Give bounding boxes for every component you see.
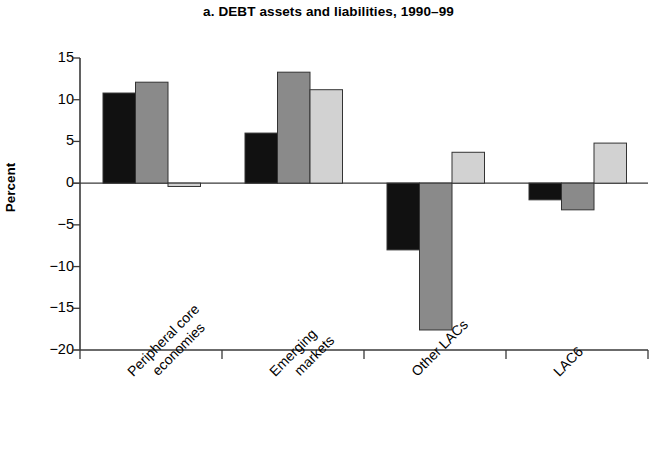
bar: [245, 133, 278, 183]
bar: [562, 183, 595, 210]
bar: [310, 90, 343, 183]
bar: [168, 183, 201, 186]
bar: [278, 72, 311, 183]
bar: [420, 183, 453, 330]
plot-area: [0, 0, 657, 467]
bar: [136, 82, 169, 183]
bar: [529, 183, 562, 200]
bar: [452, 152, 485, 183]
bar: [103, 93, 136, 183]
bar: [387, 183, 420, 250]
debt-assets-liabilities-chart: a. DEBT assets and liabilities, 1990–99 …: [0, 0, 657, 467]
bar: [594, 143, 627, 183]
